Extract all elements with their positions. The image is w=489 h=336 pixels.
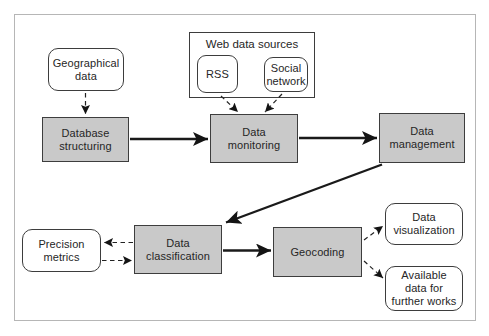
node-rss: RSS [197, 55, 238, 93]
node-available-data: Available data for further works [385, 266, 463, 311]
node-database-structuring: Database structuring [42, 117, 129, 162]
flow-diagram: Web data sources Geographical data RSS S… [0, 0, 489, 336]
node-precision-metrics: Precision metrics [22, 229, 101, 272]
node-geographical-data: Geographical data [48, 48, 124, 91]
group-web-data-sources-title: Web data sources [190, 38, 314, 51]
node-data-management: Data management [379, 113, 465, 163]
node-data-monitoring: Data monitoring [210, 114, 298, 163]
node-social-network: Social network [264, 57, 308, 92]
node-data-visualization: Data visualization [385, 203, 463, 245]
node-data-classification: Data classification [134, 225, 222, 274]
node-geocoding: Geocoding [273, 227, 362, 277]
